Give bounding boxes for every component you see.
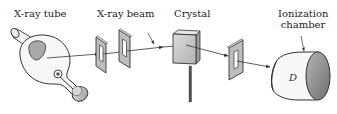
label-crystal: Crystal	[174, 8, 210, 19]
crystal-icon	[173, 30, 200, 102]
slit-2-icon	[119, 29, 132, 68]
label-ionization: Ionization	[278, 8, 328, 19]
xray-tube-icon	[9, 27, 90, 104]
diagram-stage: D X-ray tube X-ray beam Crystal Ionizati…	[0, 0, 337, 114]
label-xray-beam: X-ray beam	[97, 8, 154, 19]
label-xray-tube: X-ray tube	[14, 8, 67, 19]
slit-1-icon	[96, 36, 108, 73]
ionization-chamber-icon: D	[272, 52, 330, 100]
slit-3-icon	[228, 39, 244, 80]
label-chamber: chamber	[278, 19, 328, 30]
detector-symbol: D	[288, 72, 297, 83]
